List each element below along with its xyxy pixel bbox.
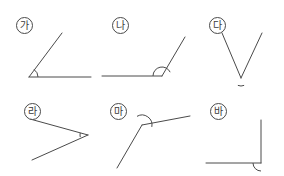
figure-label-ga: 가 [16, 17, 33, 34]
angle-arc-marker [153, 67, 170, 76]
figure-label-ba: 바 [210, 103, 227, 120]
figure-label-text: 가 [20, 20, 29, 31]
figure-label-text: 라 [28, 106, 37, 117]
angle-figure-da [222, 33, 262, 86]
angle-figure-ra [30, 119, 88, 160]
figure-label-da: 다 [209, 17, 226, 34]
angle-worksheet: 가 나 다 라 마 바 [0, 0, 284, 176]
angle-ray-2 [32, 135, 88, 160]
angle-arc-marker [137, 115, 152, 127]
angle-figures-canvas [0, 0, 284, 176]
figure-label-na: 나 [112, 17, 129, 34]
figure-label-text: 다 [213, 20, 222, 31]
angle-ray-1 [222, 33, 241, 78]
angle-arc-marker [238, 85, 244, 86]
angle-ray-2 [241, 33, 262, 78]
figure-label-text: 바 [214, 106, 223, 117]
angle-figure-ma [117, 115, 190, 168]
angle-figure-na [102, 37, 185, 76]
angle-ray-1 [30, 119, 88, 135]
angle-arc-marker [253, 163, 261, 171]
angle-ray-1 [117, 125, 142, 168]
figure-label-ra: 라 [24, 103, 41, 120]
angle-ray-2 [29, 33, 62, 77]
angle-arc-marker [34, 70, 38, 77]
angle-ray-2 [162, 37, 185, 76]
figure-label-text: 나 [116, 20, 125, 31]
angle-figure-ga [29, 33, 91, 77]
angle-figure-ba [206, 120, 261, 171]
figure-label-text: 마 [114, 106, 123, 117]
figure-label-ma: 마 [110, 103, 127, 120]
